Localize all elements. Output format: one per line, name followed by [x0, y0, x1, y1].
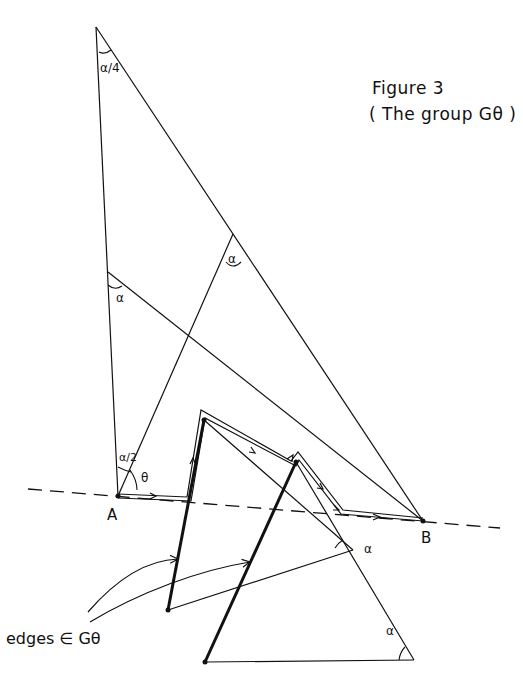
- path-arrows: [150, 447, 380, 520]
- angle-alpha-upper-label: α: [228, 252, 236, 266]
- angle-alpha-tri2-label: α: [386, 624, 394, 638]
- point-a-label: A: [107, 506, 118, 524]
- angle-alpha-half-label: α/2: [119, 451, 137, 464]
- point-a: [116, 494, 121, 499]
- figure-canvas: α/4 α α α/2 θ A B α α edges ∈ Gθ: [0, 0, 523, 685]
- figure-subtitle: ( The group Gθ ): [369, 104, 516, 124]
- angle-alpha-left-label: α: [116, 291, 124, 305]
- triangle-2: [205, 462, 414, 662]
- triangle-1: [168, 420, 353, 610]
- triangle-1-vertex: [166, 608, 171, 613]
- dashed-baseline: [28, 489, 500, 528]
- path-a-to-b: [118, 410, 423, 521]
- edges-caption: edges ∈ Gθ: [6, 629, 101, 648]
- angle-theta-label: θ: [141, 471, 148, 485]
- point-b-label: B: [421, 529, 431, 547]
- figure-title: Figure 3: [372, 78, 444, 98]
- point-b: [421, 519, 426, 524]
- apex-angle-label: α/4: [100, 61, 120, 75]
- angle-alpha-tri1-label: α: [364, 542, 372, 556]
- triangle-2-vertex: [203, 660, 208, 665]
